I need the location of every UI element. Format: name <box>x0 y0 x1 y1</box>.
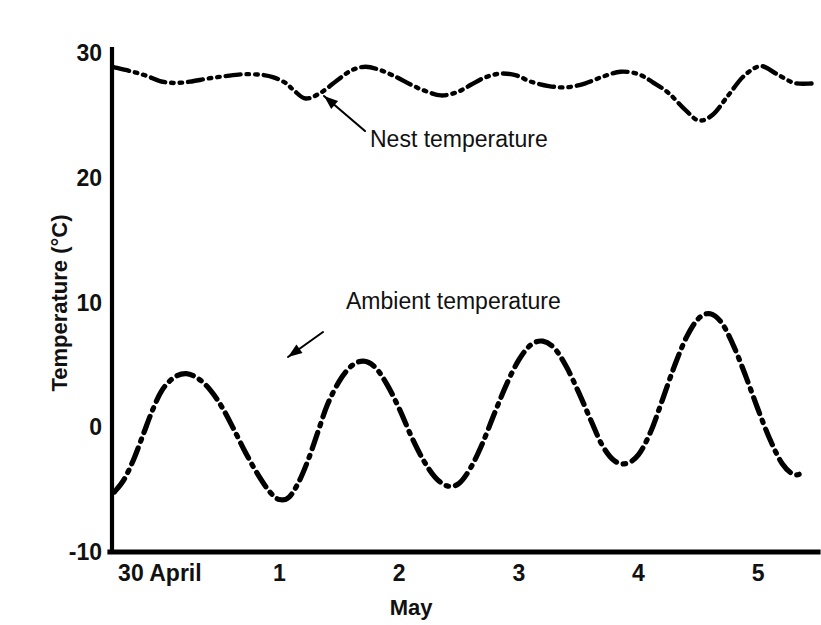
annotation-arrows-group <box>288 96 365 357</box>
y-tick-label: 30 <box>0 42 102 65</box>
y-tick-label: 20 <box>0 166 102 189</box>
x-tick-label: 2 <box>393 562 406 585</box>
series-line-nest-temperature <box>114 66 812 121</box>
chart-figure: 3020100-10 30 April12345 Nest temperatur… <box>0 0 821 625</box>
nest-temperature-annotation-text: Nest temperature <box>370 128 548 151</box>
y-axis-title: Temperature (°C) <box>49 214 71 391</box>
x-tick-label: 3 <box>512 562 525 585</box>
y-tick-label: 0 <box>0 416 102 439</box>
y-tick-label: -10 <box>0 541 102 564</box>
x-tick-label: 5 <box>752 562 765 585</box>
x-tick-label: 1 <box>273 562 286 585</box>
x-tick-label: 30 April <box>118 562 202 585</box>
x-axis-title: May <box>390 597 433 619</box>
ambient-temperature-annotation-text: Ambient temperature <box>346 290 561 313</box>
x-tick-label: 4 <box>632 562 645 585</box>
ambient-temperature-annotation-arrow-head <box>288 345 303 358</box>
series-line-ambient-temperature <box>114 314 803 500</box>
